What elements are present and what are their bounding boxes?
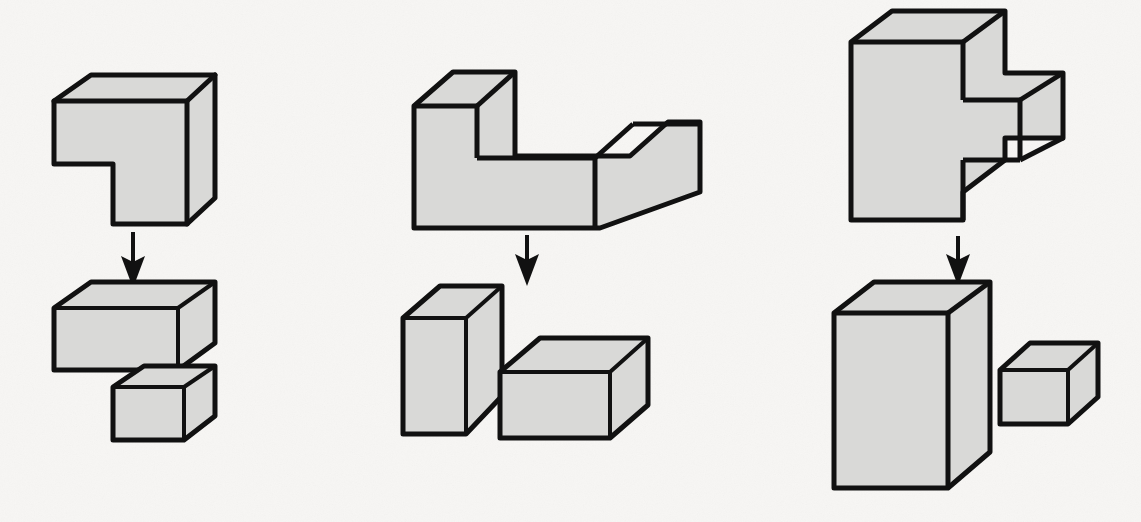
shape-small-cube-block — [113, 366, 215, 440]
shape-wide-low-block — [500, 338, 648, 438]
shape-tall-upright-block — [403, 286, 502, 434]
wide-flat-slab-outline — [54, 282, 215, 370]
diagram-canvas — [0, 0, 1141, 522]
block-decomposition-diagram — [0, 0, 1141, 522]
shape-large-tall-block — [834, 282, 990, 488]
wide-low-block-outline — [500, 338, 648, 438]
shape-small-side-block — [1000, 343, 1098, 424]
tall-upright-block-outline — [403, 286, 502, 434]
shape-wide-flat-slab — [54, 282, 215, 370]
